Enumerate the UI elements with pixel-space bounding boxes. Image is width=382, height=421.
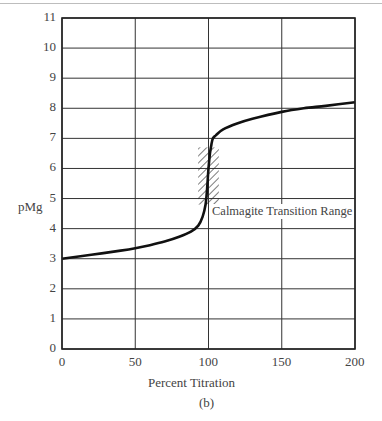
y-tick-label: 10 [43, 39, 56, 55]
x-tick-label: 200 [345, 354, 365, 370]
y-tick-label: 4 [50, 220, 57, 236]
y-tick-label: 3 [50, 250, 57, 266]
y-axis-label: pMg [18, 199, 43, 215]
x-tick-label: 100 [199, 354, 219, 370]
y-tick-label: 0 [50, 340, 57, 356]
x-tick-label: 50 [129, 354, 142, 370]
y-tick-label: 1 [50, 310, 57, 326]
x-axis-label: Percent Titration [148, 375, 235, 391]
y-tick-label: 2 [50, 280, 57, 296]
x-tick-label: 0 [59, 354, 66, 370]
x-tick-label: 150 [272, 354, 292, 370]
y-tick-label: 9 [50, 69, 57, 85]
y-tick-label: 8 [50, 99, 57, 115]
transition-range-label: Calmagite Transition Range [211, 204, 353, 219]
figure-caption: (b) [199, 395, 214, 411]
y-tick-label: 5 [50, 190, 57, 206]
y-tick-label: 6 [50, 159, 57, 175]
y-tick-label: 7 [50, 129, 57, 145]
y-tick-label: 11 [43, 9, 56, 25]
